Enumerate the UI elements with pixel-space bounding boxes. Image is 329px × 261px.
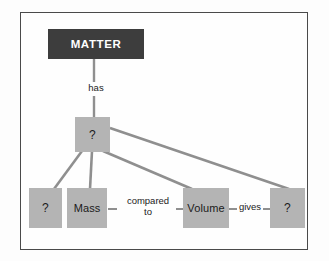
edge-label-gives: gives [234,202,266,212]
node-volume[interactable]: Volume [183,188,229,228]
node-matter-label: MATTER [71,38,122,50]
connector-dash-mass-right [108,208,117,210]
connector-center-to-right-q [110,128,289,189]
node-mass-label: Mass [74,202,101,214]
node-right-question[interactable]: ? [270,188,305,228]
connector-center-to-volume [103,151,192,189]
node-left-question[interactable]: ? [29,188,62,228]
edge-label-compared-line2: to [144,206,152,217]
edge-label-has: has [81,83,111,93]
screenshot-root: MATTER ? ? Mass Volume ? has compared to… [0,0,329,261]
edge-label-compared-to: compared to [120,196,176,217]
node-left-question-label: ? [42,201,49,215]
node-center-question-label: ? [89,128,96,142]
node-center-question[interactable]: ? [75,117,110,152]
node-mass[interactable]: Mass [67,188,107,228]
connector-center-to-left-q [54,151,82,189]
node-right-question-label: ? [284,201,291,215]
node-matter[interactable]: MATTER [48,29,144,59]
edge-label-compared-line1: compared [127,195,169,206]
node-volume-label: Volume [187,202,224,214]
connector-center-to-mass [90,151,92,189]
